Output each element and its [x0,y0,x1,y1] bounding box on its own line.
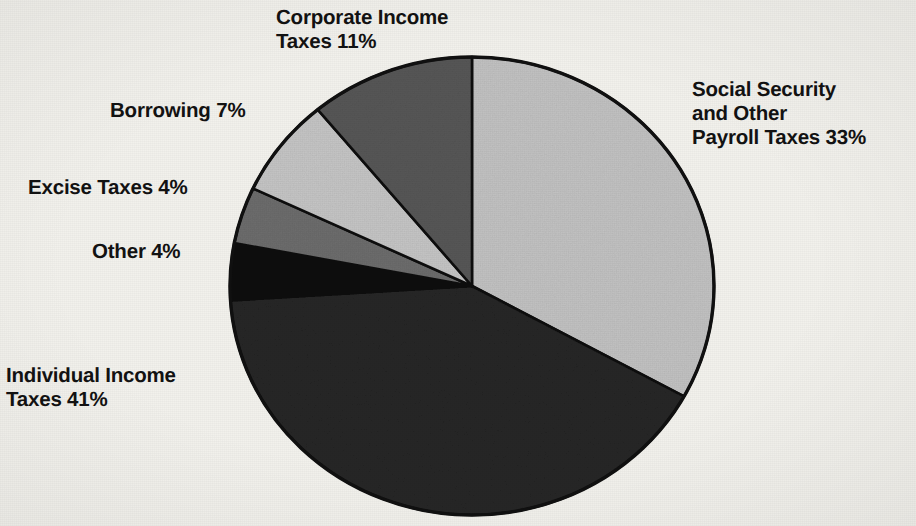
slice-label-other: Other 4% [92,240,180,264]
slice-label-individual-income-taxes: Individual Income Taxes 41% [6,364,176,412]
pie-slice-group [230,57,714,515]
pie-chart-figure: Corporate Income Taxes 11% Borrowing 7% … [0,0,916,526]
slice-label-excise-taxes: Excise Taxes 4% [28,176,188,200]
slice-label-corporate-income-taxes: Corporate Income Taxes 11% [276,6,448,54]
slice-label-social-security-payroll-taxes: Social Security and Other Payroll Taxes … [692,78,866,149]
slice-label-borrowing: Borrowing 7% [110,99,245,123]
